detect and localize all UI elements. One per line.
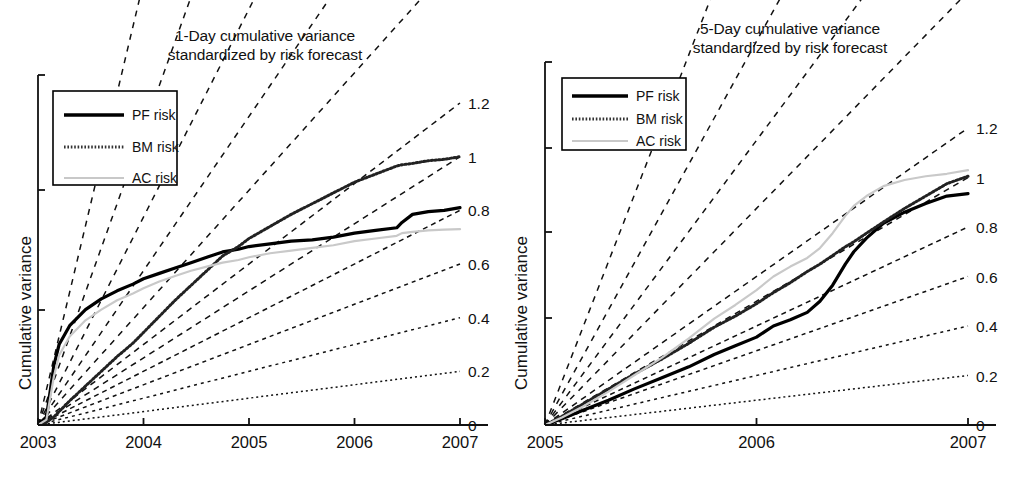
reference-line	[38, 0, 460, 425]
x-axis-tick-label: 2006	[336, 433, 373, 451]
x-axis-tick-label: 2007	[442, 433, 479, 451]
series-line-bm-risk	[38, 157, 460, 425]
reference-line	[545, 326, 968, 425]
x-axis-tick-label: 2005	[527, 433, 564, 451]
chart-panel-left: 1-Day cumulative variance standardized b…	[0, 0, 515, 477]
legend-label: BM risk	[636, 111, 684, 127]
x-axis-tick-label: 2004	[125, 433, 162, 451]
legend-label: AC risk	[636, 133, 682, 149]
value-label: 0.4	[976, 318, 998, 335]
reference-line	[38, 210, 460, 425]
legend-label: AC risk	[132, 170, 178, 186]
reference-line	[545, 128, 968, 425]
value-label: 0.8	[976, 219, 998, 236]
figure-container: 1-Day cumulative variance standardized b…	[0, 0, 1029, 477]
value-label: 1.2	[976, 120, 998, 137]
reference-line	[38, 264, 460, 425]
reference-fan-left	[38, 0, 460, 425]
value-label: 0	[976, 417, 985, 434]
reference-line	[38, 0, 460, 425]
value-label: 1.2	[468, 95, 490, 112]
x-axis-tick-label: 2003	[20, 433, 57, 451]
value-label: 0.4	[468, 310, 490, 327]
series-line-ac-risk	[38, 229, 460, 425]
value-label: 0.6	[976, 269, 998, 286]
reference-line	[38, 371, 460, 425]
reference-line	[38, 157, 460, 425]
chart-svg-right: 2005200620071.210.80.60.40.20PF riskBM r…	[500, 0, 1029, 477]
value-label: 0.2	[468, 363, 490, 380]
value-label: 0.8	[468, 202, 490, 219]
reference-line	[545, 227, 968, 425]
x-axis-tick-label: 2005	[231, 433, 268, 451]
reference-line	[545, 277, 968, 426]
chart-svg-left: 200320042005200620071.210.80.60.40.20PF …	[0, 0, 515, 477]
reference-line	[38, 0, 460, 425]
legend-left[interactable]: PF riskBM riskAC risk	[53, 91, 180, 186]
reference-line	[38, 0, 460, 425]
value-label: 1	[976, 170, 985, 187]
legend-label: PF risk	[636, 88, 681, 104]
legend-label: BM risk	[132, 139, 180, 155]
value-label: 0.2	[976, 368, 998, 385]
x-axis-tick-label: 2006	[738, 433, 775, 451]
legend-right[interactable]: PF riskBM riskAC risk	[562, 78, 686, 150]
value-label: 0.6	[468, 256, 490, 273]
x-axis-tick-label: 2007	[950, 433, 987, 451]
value-label: 1	[468, 149, 477, 166]
reference-line	[38, 0, 460, 425]
value-label: 0	[468, 417, 477, 434]
chart-panel-right: 5-Day cumulative variance standardized b…	[500, 0, 1029, 477]
legend-label: PF risk	[132, 107, 177, 123]
